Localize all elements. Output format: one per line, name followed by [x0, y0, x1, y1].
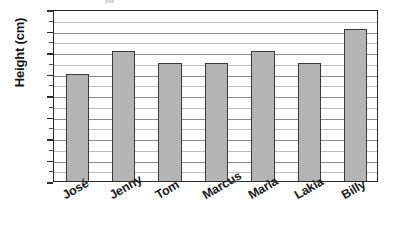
bar-chart: Height (cm) 020406080100120140160 JoséJe…	[0, 0, 395, 235]
bar	[298, 63, 321, 181]
plot-area	[53, 10, 378, 182]
bar	[112, 51, 135, 181]
bar	[344, 29, 367, 181]
y-axis-tick-mark	[47, 182, 53, 184]
gridline-major	[54, 54, 377, 55]
gridline-major	[54, 33, 377, 34]
y-axis-title: Height (cm)	[12, 0, 27, 108]
cropped-title-fragment	[105, 0, 114, 3]
gridline-minor	[54, 22, 377, 23]
bar	[251, 51, 274, 181]
bar	[205, 63, 228, 181]
bar	[158, 63, 181, 181]
gridline-minor	[54, 43, 377, 44]
bar	[66, 74, 89, 182]
